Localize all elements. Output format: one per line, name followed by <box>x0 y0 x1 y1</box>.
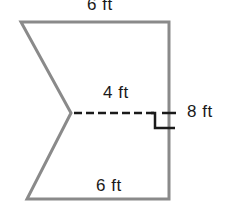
bottom-width-label: 6 ft <box>96 177 122 194</box>
right-angle-marker <box>151 113 175 128</box>
shape-outline <box>21 22 169 199</box>
height-label: 8 ft <box>187 103 213 120</box>
top-width-label: 6 ft <box>87 0 113 13</box>
notch-depth-label: 4 ft <box>103 84 129 101</box>
